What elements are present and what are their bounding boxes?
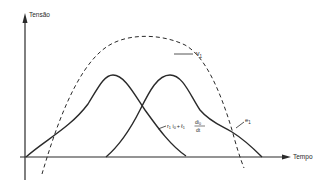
- e1-label: e1: [245, 117, 251, 125]
- voltage-time-diagram: Tensão Tempo v1 e1 r1i0+ℓ1 di0 dt: [0, 0, 330, 189]
- y-axis-arrow-icon: [23, 13, 28, 23]
- curve-r1i0-l1di0dt: [26, 75, 186, 157]
- svg-text:di0: di0: [195, 119, 201, 126]
- y-axis-label: Tensão: [29, 11, 50, 18]
- e1-leader-line: [236, 122, 244, 128]
- formula-leader-line: [158, 126, 166, 129]
- x-axis: [20, 155, 291, 160]
- v1-label: v1: [196, 50, 203, 59]
- formula-label: r1i0+ℓ1 di0 dt: [167, 119, 205, 133]
- x-axis-label: Tempo: [293, 153, 313, 161]
- x-axis-arrow-icon: [282, 155, 291, 160]
- svg-text:dt: dt: [196, 127, 201, 133]
- svg-text:r1i0+ℓ1: r1i0+ℓ1: [167, 123, 185, 130]
- y-axis: [23, 13, 28, 180]
